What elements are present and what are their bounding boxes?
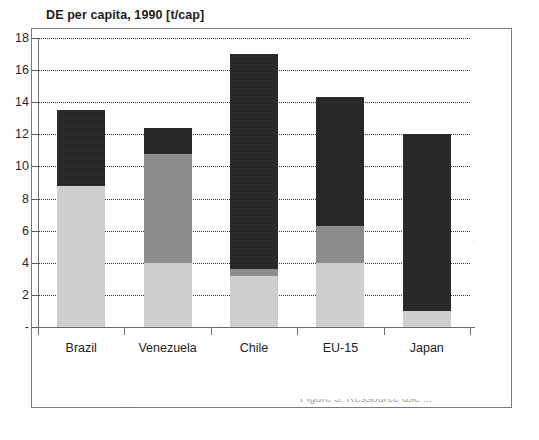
y-axis-tick bbox=[32, 199, 39, 200]
bar-segment-light-gray-segment[interactable] bbox=[403, 311, 451, 327]
x-axis-label-japan: Japan bbox=[410, 341, 444, 355]
bar-segment-dark-segment[interactable] bbox=[316, 97, 364, 225]
y-axis-tick bbox=[32, 263, 39, 264]
x-axis-label-venezuela: Venezuela bbox=[138, 341, 196, 355]
y-axis-tick bbox=[32, 166, 39, 167]
bar-segment-medium-gray-segment[interactable] bbox=[144, 154, 192, 263]
y-axis-tick-label: 4 bbox=[22, 256, 29, 270]
plot-area: -24681012141618 BrazilVenezuelaChileEU-1… bbox=[38, 38, 470, 327]
y-axis-tick-label: 12 bbox=[15, 127, 29, 141]
bar-segment-dark-segment[interactable] bbox=[403, 134, 451, 311]
clipped-caption: Figure 5: Ressource use ... bbox=[300, 399, 500, 408]
x-axis-tick bbox=[211, 327, 212, 335]
bar-group[interactable] bbox=[230, 38, 278, 327]
x-axis-tick bbox=[297, 327, 298, 335]
bar-segment-light-gray-segment[interactable] bbox=[57, 186, 105, 327]
bar-segment-medium-gray-segment[interactable] bbox=[230, 269, 278, 275]
x-axis-line bbox=[32, 327, 475, 328]
x-axis-tick bbox=[38, 327, 39, 335]
x-axis-tick bbox=[384, 327, 385, 335]
x-axis-label-eu-15: EU-15 bbox=[323, 341, 358, 355]
y-axis-tick bbox=[32, 102, 39, 103]
y-axis-tick-label: - bbox=[25, 320, 29, 334]
y-axis-tick-label: 10 bbox=[15, 159, 29, 173]
x-axis-tick bbox=[124, 327, 125, 335]
x-axis-tick bbox=[470, 327, 471, 335]
y-axis-tick-label: 18 bbox=[15, 31, 29, 45]
bar-segment-dark-segment[interactable] bbox=[230, 54, 278, 269]
y-axis-tick bbox=[32, 38, 39, 39]
x-axis-label-brazil: Brazil bbox=[66, 341, 97, 355]
y-axis-tick-label: 8 bbox=[22, 192, 29, 206]
bar-segment-light-gray-segment[interactable] bbox=[230, 276, 278, 327]
x-axis-label-chile: Chile bbox=[240, 341, 269, 355]
y-axis-tick-label: 6 bbox=[22, 224, 29, 238]
bar-segment-medium-gray-segment[interactable] bbox=[316, 226, 364, 263]
bar-segment-dark-segment[interactable] bbox=[57, 110, 105, 185]
scanned-page: DE per capita, 1990 [t/cap] -24681012141… bbox=[0, 0, 539, 440]
y-axis-tick bbox=[32, 70, 39, 71]
bar-group[interactable] bbox=[57, 38, 105, 327]
bar-group[interactable] bbox=[316, 38, 364, 327]
chart-title: DE per capita, 1990 [t/cap] bbox=[46, 8, 204, 22]
clipped-caption-text: Figure 5: Ressource use ... bbox=[300, 399, 500, 404]
bar-group[interactable] bbox=[403, 38, 451, 327]
y-axis-line bbox=[38, 38, 39, 327]
bar-segment-dark-segment[interactable] bbox=[144, 128, 192, 154]
y-axis-tick bbox=[32, 295, 39, 296]
bar-group[interactable] bbox=[144, 38, 192, 327]
bar-segment-light-gray-segment[interactable] bbox=[144, 263, 192, 327]
y-axis-tick-label: 14 bbox=[15, 95, 29, 109]
y-axis-tick bbox=[32, 134, 39, 135]
bar-segment-light-gray-segment[interactable] bbox=[316, 263, 364, 327]
y-axis-tick bbox=[32, 231, 39, 232]
y-axis-tick-label: 16 bbox=[15, 63, 29, 77]
y-axis-tick-label: 2 bbox=[22, 288, 29, 302]
